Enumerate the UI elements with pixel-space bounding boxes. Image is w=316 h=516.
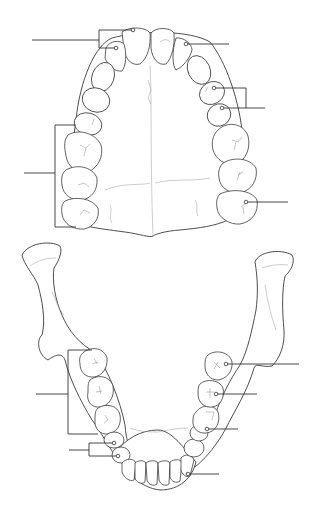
lower-canine-left bbox=[122, 459, 136, 480]
maxilla bbox=[62, 28, 258, 237]
lower-premolar-1-right bbox=[184, 439, 204, 457]
mandible bbox=[22, 243, 293, 490]
lower-premolar-2-left bbox=[104, 432, 124, 448]
lower-molar-3-right bbox=[205, 352, 232, 380]
marker-lower-molar-2 bbox=[214, 392, 218, 396]
lower-incisor-3 bbox=[158, 461, 170, 485]
marker-lower-canine bbox=[186, 472, 190, 476]
marker-upper-right-lateral-incisor bbox=[184, 42, 188, 46]
marker-lower-premolar-2 bbox=[112, 441, 116, 445]
marker-upper-premolar-2 bbox=[220, 106, 224, 110]
marker-lower-molar-3 bbox=[224, 362, 228, 366]
mandible-left-ramus bbox=[22, 243, 140, 462]
marker-upper-third-molar bbox=[244, 200, 248, 204]
dental-arches-diagram bbox=[0, 0, 316, 516]
marker-lower-molar-1 bbox=[205, 427, 209, 431]
marker-upper-lateral-incisor bbox=[114, 46, 118, 50]
marker-upper-premolar-1 bbox=[212, 86, 216, 90]
upper-molar-2-right bbox=[219, 159, 257, 193]
marker-lower-premolar-1 bbox=[116, 454, 120, 458]
marker-upper-central-incisor bbox=[131, 28, 135, 32]
upper-molar-3-left bbox=[62, 198, 99, 229]
upper-molar-2-left bbox=[62, 167, 97, 200]
lower-incisor-2 bbox=[146, 461, 158, 485]
upper-molar-1-right bbox=[212, 124, 249, 164]
upper-molar-1-left bbox=[65, 132, 102, 172]
lower-incisor-1 bbox=[135, 461, 146, 483]
lower-incisor-4 bbox=[170, 460, 182, 482]
